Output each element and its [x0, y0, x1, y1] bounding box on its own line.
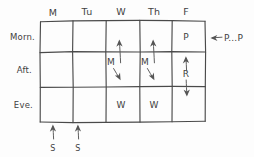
grid-border-top: [41, 20, 206, 21]
cell-entry-wed-evening: W: [116, 100, 125, 110]
row-labels: Morn. Aft. Eve.: [10, 32, 35, 110]
row-divider-afternoon-evening: [40, 86, 205, 87]
cell-entry-fri-afternoon: R: [183, 69, 189, 79]
arrow-thu-m-down: [147, 69, 154, 81]
arrow-thu-m-up: [150, 40, 156, 63]
column-headers: M Tu W Th F: [49, 6, 189, 18]
column-header-wed: W: [116, 6, 126, 17]
arrow-thu-m-down-head: [149, 73, 155, 81]
arrow-wed-m-up: [116, 40, 122, 63]
col-divider-mon-tue: [73, 21, 74, 123]
column-header-fri: F: [183, 6, 189, 17]
row-label-evening: Eve.: [14, 100, 33, 110]
right-note-label: P...P: [224, 33, 243, 43]
cell-entry-fri-morning: P: [183, 32, 189, 42]
column-header-mon: M: [49, 7, 57, 18]
cell-entry-thu-afternoon: M: [141, 57, 149, 67]
cell-entry-thu-evening: W: [149, 100, 158, 110]
grid-border-left: [40, 22, 41, 122]
grid-border-bottom: [40, 121, 205, 122]
bottom-mon-label: S: [50, 144, 55, 153]
column-header-thu: Th: [147, 6, 160, 17]
annotation-bottom-tue: S: [75, 125, 81, 153]
cell-entry-wed-afternoon: M: [107, 57, 115, 67]
row-label-morning: Morn.: [10, 32, 35, 42]
row-label-afternoon: Aft.: [17, 65, 32, 75]
arrow-wed-m-down-head: [115, 73, 121, 81]
column-header-tue: Tu: [81, 6, 93, 17]
grid-row-dividers: [40, 52, 206, 88]
annotation-bottom-mon: S: [50, 125, 56, 153]
annotation-right-note: P...P: [210, 33, 243, 43]
schedule-grid-drawing: M Tu W Th F Morn. Aft. Eve. P M M R W W: [0, 0, 254, 157]
grid-border-right: [205, 21, 206, 121]
bottom-tue-label: S: [75, 144, 80, 153]
arrow-fri-r-down: [184, 80, 190, 97]
schedule-sketch-canvas: M Tu W Th F Morn. Aft. Eve. P M M R W W: [0, 0, 254, 157]
row-divider-morning-afternoon: [40, 52, 206, 53]
arrow-wed-m-down: [114, 69, 121, 81]
